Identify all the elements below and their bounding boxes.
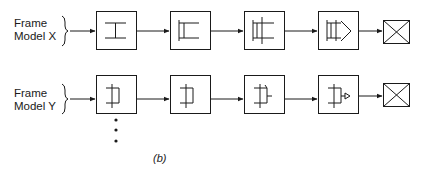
completed-crate-icon xyxy=(384,21,410,44)
brace-icon xyxy=(62,16,68,46)
stage-box-1 xyxy=(97,12,137,50)
stage-box-3 xyxy=(245,12,285,50)
stage-box-3 xyxy=(245,76,285,114)
continuation-dots xyxy=(114,118,117,142)
stage-box-2 xyxy=(171,76,211,114)
stage-box-1 xyxy=(97,76,137,114)
row-model-y xyxy=(70,76,410,114)
brace-icon xyxy=(62,84,68,114)
row-model-x xyxy=(70,12,410,50)
completed-crate-icon xyxy=(384,84,410,107)
stage-box-2 xyxy=(171,12,211,50)
stage-box-4 xyxy=(319,76,359,114)
assembly-flow-diagram xyxy=(0,0,423,173)
stage-box-4 xyxy=(319,12,359,50)
